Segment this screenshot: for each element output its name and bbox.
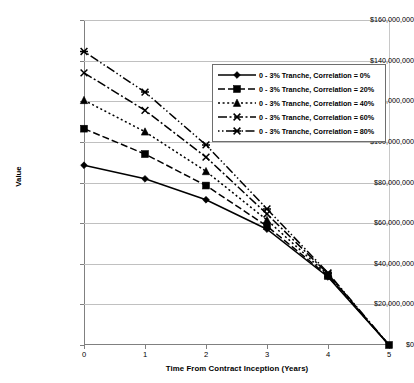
x-tick-label: 1 [133,350,157,359]
legend-label: 0 - 3% Tranche, Correlation = 80% [259,127,374,136]
y-tick-label: $40,000,000 [338,260,414,268]
x-tick-mark [84,345,85,349]
x-tick-mark [206,345,207,349]
y-tick-mark [80,142,84,143]
x-tick-label: 0 [72,350,96,359]
x-axis-title: Time From Contract Inception (Years) [84,364,390,373]
data-point-triangle [233,99,240,106]
y-tick-mark [80,304,84,305]
legend-key-asterisk-icon [215,124,259,138]
x-tick-label: 3 [255,350,279,359]
legend-key-square-icon [215,82,259,96]
legend-key-diamond-icon [215,68,259,82]
legend-label: 0 - 3% Tranche, Correlation = 40% [259,99,374,108]
x-tick-mark [267,345,268,349]
data-point-asterisk [233,128,241,135]
x-tick-label: 5 [377,350,401,359]
legend-item-2: 0 - 3% Tranche, Correlation = 40% [215,96,382,110]
y-tick-label: $60,000,000 [338,219,414,227]
y-tick-mark [80,101,84,102]
y-tick-label: $0 [338,341,414,349]
x-tick-mark [328,345,329,349]
legend-item-0: 0 - 3% Tranche, Correlation = 0% [215,68,382,82]
chart-legend: 0 - 3% Tranche, Correlation = 0%0 - 3% T… [212,64,386,142]
legend-label: 0 - 3% Tranche, Correlation = 0% [259,71,370,80]
data-point-diamond [234,72,241,79]
legend-item-4: 0 - 3% Tranche, Correlation = 80% [215,124,382,138]
legend-key-triangle-icon [215,96,259,110]
y-tick-mark [80,223,84,224]
data-point-square [234,86,241,93]
x-tick-mark [145,345,146,349]
y-tick-mark [80,264,84,265]
y-axis-title: Value [14,147,23,207]
y-tick-label: $20,000,000 [338,300,414,308]
legend-label: 0 - 3% Tranche, Correlation = 60% [259,113,374,122]
y-tick-label: $80,000,000 [338,179,414,187]
y-tick-mark [80,20,84,21]
y-tick-label: $160,000,000 [338,16,414,24]
legend-key-cross-icon [215,110,259,124]
legend-item-1: 0 - 3% Tranche, Correlation = 20% [215,82,382,96]
x-tick-label: 4 [316,350,340,359]
chart-container: $0$20,000,000$40,000,000$60,000,000$80,0… [0,0,414,383]
y-tick-mark [80,183,84,184]
legend-item-3: 0 - 3% Tranche, Correlation = 60% [215,110,382,124]
y-tick-mark [80,61,84,62]
x-tick-mark [389,345,390,349]
legend-label: 0 - 3% Tranche, Correlation = 20% [259,85,374,94]
x-tick-label: 2 [194,350,218,359]
